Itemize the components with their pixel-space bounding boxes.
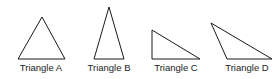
- triangle-c-shape: [152, 30, 200, 59]
- triangle-a-label: Triangle A: [20, 62, 62, 74]
- triangle-a-shape: [18, 17, 65, 59]
- triangle-b-shape: [94, 7, 124, 59]
- triangle-b-label: Triangle B: [88, 62, 131, 74]
- triangle-c-label: Triangle C: [154, 62, 197, 74]
- triangle-d-shape: [211, 23, 272, 59]
- triangle-d-label: Triangle D: [225, 62, 268, 74]
